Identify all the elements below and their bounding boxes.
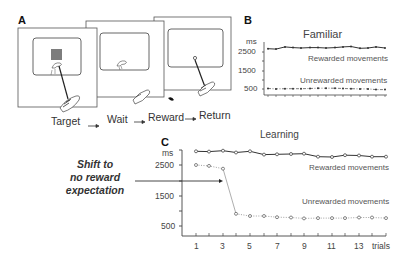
panel-c-axes	[179, 150, 386, 236]
panel-c-plot	[0, 0, 404, 261]
panel-c-rewarded-series	[195, 149, 388, 158]
panel-c-unrewarded-series	[195, 164, 388, 220]
shift-arrow	[135, 179, 223, 183]
